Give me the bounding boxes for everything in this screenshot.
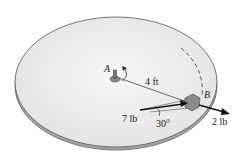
label-point-b: B [204,89,210,100]
pivot-shaft [114,70,117,78]
disk-diagram: A 4 ft B 7 lb 30° 2 lb [0,0,244,162]
label-angle: 30° [156,118,170,129]
force-arrowhead-2lb [221,108,230,115]
label-radius: 4 ft [145,76,159,87]
label-force-2lb: 2 lb [212,116,227,127]
label-point-a: A [103,63,111,74]
label-force-7lb: 7 lb [122,113,137,124]
